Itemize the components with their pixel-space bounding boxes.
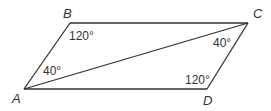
vertex-label-a: A <box>11 91 21 106</box>
vertex-label-c: C <box>253 6 263 21</box>
diagonal-ac <box>24 23 248 89</box>
parallelogram-diagram: A B C D 120° 40° 40° 120° <box>0 0 271 111</box>
vertex-label-d: D <box>203 93 212 108</box>
angle-label-a: 40° <box>43 64 61 78</box>
angle-label-b: 120° <box>69 29 94 43</box>
angle-label-d: 120° <box>185 73 210 87</box>
edge-ab <box>24 23 70 89</box>
angle-label-c: 40° <box>213 36 231 50</box>
diagram-canvas: A B C D 120° 40° 40° 120° <box>0 0 271 111</box>
vertex-label-b: B <box>63 6 72 21</box>
